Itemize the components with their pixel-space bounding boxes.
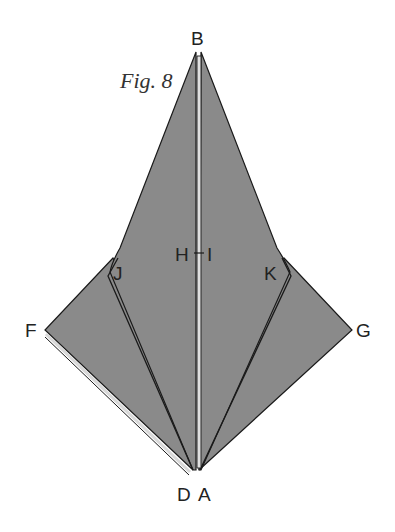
label-j: J [113, 264, 123, 283]
label-i: I [207, 245, 212, 264]
label-b: B [191, 29, 204, 48]
figure-title: Fig. 8 [120, 70, 173, 92]
label-f: F [25, 321, 37, 340]
fold-illustration [0, 0, 395, 532]
label-d: D [177, 485, 191, 504]
label-g: G [356, 321, 371, 340]
center-strip [197, 56, 201, 468]
label-h: H [175, 245, 189, 264]
label-k: K [264, 264, 277, 283]
label-a: A [198, 485, 211, 504]
origami-diagram: Fig. 8 B H I J K F G D A [0, 0, 395, 532]
